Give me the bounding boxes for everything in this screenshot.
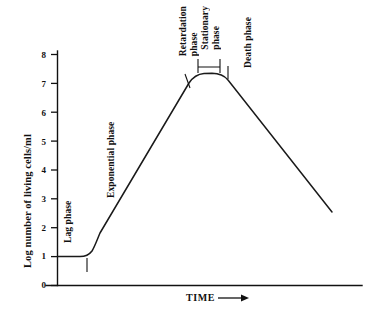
growth-curve-line: [58, 73, 332, 256]
plot-area: [0, 0, 370, 321]
time-arrow-head: [241, 295, 249, 302]
growth-curve-figure: 8 7 6 5 4 3 2 1 0 Log number of living c…: [0, 0, 370, 321]
phase-bracket-stationary: [198, 59, 220, 73]
